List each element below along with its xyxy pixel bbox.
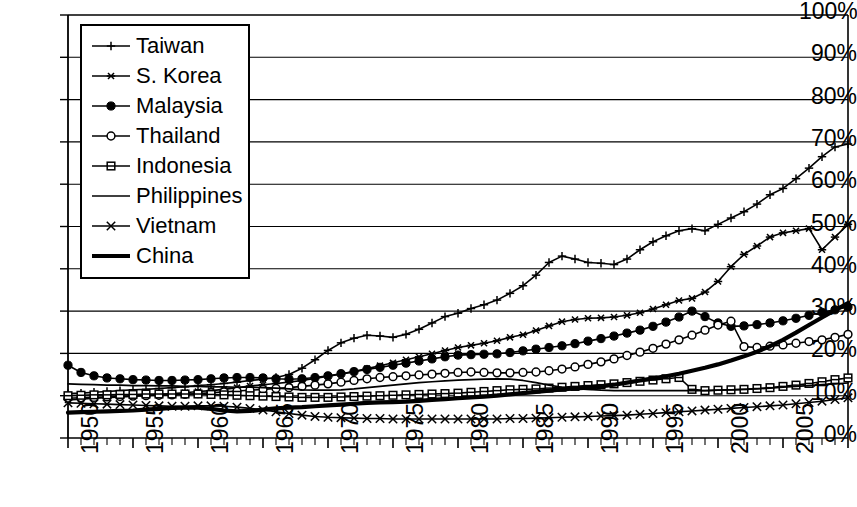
marker bbox=[441, 369, 449, 377]
marker bbox=[623, 352, 631, 360]
marker bbox=[285, 384, 293, 392]
legend-label: Indonesia bbox=[136, 153, 231, 179]
marker bbox=[246, 373, 254, 381]
marker bbox=[519, 369, 527, 377]
marker bbox=[753, 321, 761, 329]
marker bbox=[107, 102, 115, 110]
x-axis-tick-label: 1970 bbox=[337, 403, 364, 454]
marker bbox=[129, 376, 137, 384]
cross-legend-icon bbox=[88, 215, 134, 237]
marker bbox=[259, 374, 267, 382]
marker bbox=[480, 369, 488, 377]
legend-label: Malaysia bbox=[136, 93, 223, 119]
marker bbox=[220, 374, 228, 382]
marker bbox=[324, 380, 332, 388]
marker bbox=[740, 322, 748, 330]
marker bbox=[831, 333, 839, 341]
x-axis-tick-label: 1995 bbox=[662, 403, 689, 454]
marker bbox=[389, 361, 397, 369]
marker bbox=[701, 312, 709, 320]
marker bbox=[584, 337, 592, 345]
marker bbox=[181, 376, 189, 384]
marker bbox=[545, 343, 553, 351]
marker bbox=[467, 351, 475, 359]
x-axis-tick-label: 1955 bbox=[142, 403, 169, 454]
legend-item: China bbox=[88, 241, 242, 271]
marker bbox=[324, 372, 332, 380]
x-axis-tick-label: 1960 bbox=[207, 403, 234, 454]
marker bbox=[107, 132, 115, 140]
plus-legend-icon bbox=[88, 35, 134, 57]
legend-item: Taiwan bbox=[88, 31, 242, 61]
marker bbox=[350, 367, 358, 375]
marker bbox=[675, 313, 683, 321]
marker bbox=[402, 359, 410, 367]
marker bbox=[415, 357, 423, 365]
marker bbox=[441, 353, 449, 361]
marker bbox=[662, 340, 670, 348]
marker bbox=[194, 376, 202, 384]
legend-label: S. Korea bbox=[136, 63, 222, 89]
legend-label: Thailand bbox=[136, 123, 220, 149]
x-axis-tick-label: 1985 bbox=[532, 403, 559, 454]
marker bbox=[532, 368, 540, 376]
chart-legend: TaiwanS. KoreaMalaysiaThailandIndonesiaP… bbox=[80, 24, 250, 279]
marker bbox=[337, 378, 345, 386]
marker bbox=[779, 317, 787, 325]
marker bbox=[649, 344, 657, 352]
open-circle-legend-icon bbox=[88, 125, 134, 147]
marker bbox=[402, 372, 410, 380]
marker bbox=[493, 350, 501, 358]
legend-label: Taiwan bbox=[136, 33, 204, 59]
marker bbox=[818, 336, 826, 344]
marker bbox=[77, 368, 85, 376]
x-axis-tick-label: 2005 bbox=[792, 403, 819, 454]
marker bbox=[558, 342, 566, 350]
marker bbox=[428, 370, 436, 378]
marker bbox=[506, 348, 514, 356]
marker bbox=[454, 351, 462, 359]
marker bbox=[740, 343, 748, 351]
marker bbox=[792, 339, 800, 347]
marker bbox=[506, 369, 514, 377]
legend-item: S. Korea bbox=[88, 61, 242, 91]
marker bbox=[844, 330, 852, 338]
none-thick-legend-icon bbox=[88, 245, 134, 267]
marker bbox=[311, 373, 319, 381]
none-thin-legend-icon bbox=[88, 185, 134, 207]
legend-label: China bbox=[136, 243, 193, 269]
x-axis-tick-label: 1950 bbox=[77, 403, 104, 454]
marker bbox=[90, 372, 98, 380]
marker bbox=[805, 338, 813, 346]
marker bbox=[363, 365, 371, 373]
marker bbox=[545, 367, 553, 375]
legend-label: Philippines bbox=[136, 183, 242, 209]
marker bbox=[168, 376, 176, 384]
marker bbox=[610, 355, 618, 363]
marker bbox=[389, 373, 397, 381]
legend-item: Indonesia bbox=[88, 151, 242, 181]
marker bbox=[532, 345, 540, 353]
marker bbox=[363, 375, 371, 383]
marker bbox=[480, 350, 488, 358]
legend-item: Malaysia bbox=[88, 91, 242, 121]
marker bbox=[272, 375, 280, 383]
legend-item: Vietnam bbox=[88, 211, 242, 241]
x-axis-tick-label: 1980 bbox=[467, 403, 494, 454]
marker bbox=[610, 332, 618, 340]
marker bbox=[675, 336, 683, 344]
chart-container: 0%10%20%30%40%50%60%70%80%90%100% 195019… bbox=[0, 0, 857, 507]
marker bbox=[116, 375, 124, 383]
marker bbox=[311, 381, 319, 389]
marker bbox=[493, 369, 501, 377]
marker bbox=[415, 371, 423, 379]
marker bbox=[155, 376, 163, 384]
marker bbox=[558, 365, 566, 373]
marker bbox=[701, 326, 709, 334]
marker bbox=[805, 311, 813, 319]
legend-item: Thailand bbox=[88, 121, 242, 151]
marker bbox=[298, 375, 306, 383]
marker bbox=[376, 374, 384, 382]
marker bbox=[714, 321, 722, 329]
marker bbox=[649, 322, 657, 330]
